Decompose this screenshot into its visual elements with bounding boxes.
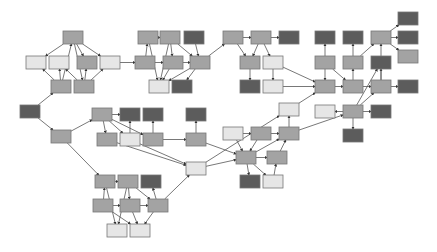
node-box-d4[interactable] <box>398 12 418 25</box>
node-box-d8[interactable] <box>343 56 363 69</box>
node-box-f5[interactable] <box>120 199 140 212</box>
node-box-d6[interactable] <box>398 50 418 63</box>
node-box-c2[interactable] <box>251 31 271 44</box>
node-box-d1[interactable] <box>315 31 335 44</box>
node-box-c6[interactable] <box>240 80 260 93</box>
edge-arrow <box>283 67 315 82</box>
node-box-m2[interactable] <box>120 108 140 121</box>
node-box-a5[interactable] <box>100 56 120 69</box>
edge-arrow <box>390 25 399 31</box>
edge-arrow <box>163 69 169 80</box>
node-box-d11[interactable] <box>343 80 363 93</box>
node-box-a3[interactable] <box>49 56 69 69</box>
edge-arrow <box>253 44 258 56</box>
node-box-e5[interactable] <box>267 151 287 164</box>
node-box-m1[interactable] <box>92 108 112 121</box>
node-box-b5[interactable] <box>163 56 183 69</box>
edge-arrow <box>66 69 77 80</box>
node-box-a4[interactable] <box>77 56 97 69</box>
edge-arrow <box>77 44 84 56</box>
edge-arrow <box>280 140 286 151</box>
node-box-a1[interactable] <box>63 31 83 44</box>
node-box-c3[interactable] <box>279 31 299 44</box>
node-box-b7[interactable] <box>149 80 169 93</box>
node-box-m0[interactable] <box>51 130 71 143</box>
edge-arrow <box>187 69 195 80</box>
node-box-e2[interactable] <box>251 127 271 140</box>
node-box-b4[interactable] <box>135 56 155 69</box>
node-box-e7[interactable] <box>263 175 283 188</box>
edge-arrow <box>206 160 236 167</box>
edge-arrow <box>129 188 130 199</box>
edge-arrow <box>91 69 103 80</box>
node-box-b6[interactable] <box>190 56 210 69</box>
edge-arrow <box>250 140 257 151</box>
node-box-m6[interactable] <box>120 133 140 146</box>
node-box-d3[interactable] <box>371 31 391 44</box>
node-box-d10[interactable] <box>315 80 335 93</box>
node-box-b8[interactable] <box>172 80 192 93</box>
edge-arrow <box>85 69 86 80</box>
node-box-f3[interactable] <box>141 175 161 188</box>
node-box-a6[interactable] <box>51 80 71 93</box>
node-box-m3[interactable] <box>143 108 163 121</box>
node-box-m5[interactable] <box>97 133 117 146</box>
edge-arrow <box>390 44 399 50</box>
node-box-m8[interactable] <box>186 133 206 146</box>
edge-arrow <box>38 118 53 130</box>
edge-arrow <box>112 119 143 134</box>
node-box-b2[interactable] <box>160 31 180 44</box>
edge-arrow <box>165 175 190 199</box>
node-box-c8[interactable] <box>279 103 299 116</box>
node-box-a7[interactable] <box>74 80 94 93</box>
node-box-f7[interactable] <box>107 224 127 237</box>
edge-arrow <box>43 69 54 80</box>
node-box-d9[interactable] <box>371 56 391 69</box>
edge-arrow <box>264 44 270 56</box>
edge-arrow <box>247 164 249 175</box>
node-box-c1[interactable] <box>223 31 243 44</box>
node-box-e6[interactable] <box>240 175 260 188</box>
edge-arrow <box>299 93 315 103</box>
node-box-d7[interactable] <box>315 56 335 69</box>
edge-arrow <box>237 44 245 56</box>
edge-arrow <box>237 140 243 151</box>
edge-arrow <box>274 164 276 175</box>
edge-arrow <box>104 188 105 199</box>
node-box-d13[interactable] <box>398 80 418 93</box>
node-box-b3[interactable] <box>184 31 204 44</box>
edge-arrow <box>196 44 199 56</box>
edge-arrow <box>169 68 190 80</box>
node-box-root[interactable] <box>20 105 40 118</box>
node-box-e4[interactable] <box>236 151 256 164</box>
node-box-c4[interactable] <box>240 56 260 69</box>
edge-arrow <box>153 188 156 199</box>
edge-arrow <box>83 44 101 56</box>
node-box-d15[interactable] <box>343 105 363 118</box>
node-box-m4[interactable] <box>186 108 206 121</box>
node-box-d5[interactable] <box>398 31 418 44</box>
node-box-m9[interactable] <box>186 162 206 175</box>
node-box-c5[interactable] <box>263 56 283 69</box>
node-box-f4[interactable] <box>93 199 113 212</box>
node-box-f8[interactable] <box>130 224 150 237</box>
node-box-e1[interactable] <box>223 127 243 140</box>
node-box-e3[interactable] <box>279 127 299 140</box>
edge-arrow <box>109 121 122 133</box>
node-box-f6[interactable] <box>148 199 168 212</box>
node-box-d12[interactable] <box>371 80 391 93</box>
node-box-d17[interactable] <box>343 129 363 142</box>
node-box-d2[interactable] <box>343 31 363 44</box>
edge-arrow <box>60 69 61 80</box>
node-box-f1[interactable] <box>95 175 115 188</box>
edge-arrow <box>136 188 150 199</box>
node-box-d16[interactable] <box>371 105 391 118</box>
node-box-m7[interactable] <box>143 133 163 146</box>
diagram-edges <box>0 0 437 252</box>
node-box-f2[interactable] <box>118 175 138 188</box>
edge-arrow <box>71 120 92 131</box>
node-box-a2[interactable] <box>26 56 46 69</box>
node-box-d14[interactable] <box>315 105 335 118</box>
node-box-c7[interactable] <box>263 80 283 93</box>
node-box-b1[interactable] <box>138 31 158 44</box>
